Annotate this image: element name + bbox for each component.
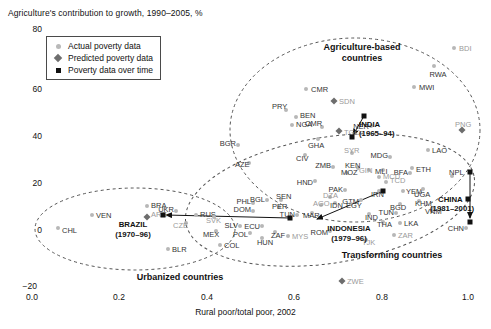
label-HND: HND — [297, 178, 313, 187]
point-BRA — [145, 204, 149, 208]
label-MDG: MDG — [371, 151, 389, 160]
label-HUN: HUN — [257, 238, 273, 247]
label-EGY: EGY — [346, 201, 362, 210]
label-VEN: VEN — [96, 211, 111, 220]
label-BRA: BRA — [151, 201, 166, 210]
label-SDN: SDN — [339, 97, 355, 106]
point-CHINA-start — [468, 170, 473, 175]
x-tick-0.8: 0.8 — [367, 292, 397, 302]
label-CMR-2: CMR — [305, 119, 322, 128]
label-MYS: MYS — [292, 232, 308, 241]
y-axis-title: Agriculture's contribution to growth, 19… — [8, 8, 203, 18]
legend-item-predicted: Predicted poverty data — [52, 52, 153, 64]
point-MYS — [286, 234, 290, 238]
y-tick-60: 60 — [8, 84, 42, 94]
label-BRAZIL-years: (1970–96) — [115, 230, 151, 239]
legend-marker-circle-icon — [52, 44, 64, 49]
label-ZAR: ZAR — [398, 231, 413, 240]
label-NPL: NPL — [449, 168, 464, 177]
point-BGL — [265, 198, 269, 202]
legend-marker-square-icon — [52, 68, 64, 73]
annotation-agriculture-based: Agriculture-based countries — [323, 42, 400, 64]
point-DOM — [251, 209, 255, 213]
label-INDIA-name: INDIA — [359, 120, 380, 129]
point-POL — [248, 231, 252, 235]
x-tick-1.0: 1.0 — [453, 292, 483, 302]
label-BRAZIL-name: BRAZIL — [119, 220, 148, 229]
label-INDIA-years: (1965–94) — [359, 129, 395, 138]
label-CHL: CHL — [62, 226, 77, 235]
point-CHN — [464, 226, 468, 230]
label-RWA: RWA — [429, 70, 446, 79]
point-ZMB — [331, 165, 335, 169]
point-CHINA-mid — [466, 197, 471, 202]
point-INDIA-start — [362, 114, 367, 119]
point-MCD — [377, 175, 381, 179]
label-ETH: ETH — [416, 165, 431, 174]
label-INDONESIA-name: INDONESIA — [327, 224, 370, 233]
label-ZWE: ZWE — [347, 277, 364, 286]
point-HND — [313, 179, 317, 183]
point-ETH — [410, 166, 414, 170]
label-IDN: IDN — [330, 201, 343, 210]
point-TCD — [384, 180, 388, 184]
annotation-agriculture-based-line1: Agriculture-based — [323, 42, 400, 53]
scatter-chart-figure: Agriculture's contribution to growth, 19… — [0, 0, 491, 329]
point-BEN — [294, 115, 298, 119]
point-BGR — [236, 143, 240, 147]
point-TUN-2 — [394, 211, 398, 215]
label-BLR: BLR — [172, 245, 187, 254]
label-BGL: BGL — [250, 195, 265, 204]
label-AGO: AGO — [313, 199, 330, 208]
label-GHA: GHA — [308, 141, 324, 150]
point-YEM — [401, 189, 405, 193]
y-tick-0: 0 — [8, 225, 42, 235]
point-BRAZIL-start — [288, 216, 293, 221]
point-TGO — [335, 127, 342, 134]
point-MDG — [388, 155, 392, 159]
point-RUS — [194, 213, 198, 217]
label-CHINA-name: CHINA — [438, 195, 463, 204]
label-CHN: CHN — [448, 224, 464, 233]
point-BFA — [408, 171, 412, 175]
label-CHINA-years: (1981–2001) — [430, 204, 474, 213]
label-MEX: MEX — [203, 230, 219, 239]
label-GIN: GIN — [359, 166, 372, 175]
label-IND: IND — [365, 213, 378, 222]
point-PAK — [343, 188, 347, 192]
point-TUN-1 — [295, 213, 299, 217]
y-tick-neg20: −20 — [3, 281, 37, 291]
label-TUN-2: TUN — [379, 208, 394, 217]
point-CHL — [56, 226, 60, 230]
label-BGR: BGR — [220, 139, 236, 148]
point-BDI — [452, 46, 456, 50]
point-RWA — [432, 64, 436, 68]
legend-label-predicted: Predicted poverty data — [68, 53, 153, 63]
brazil-trajectory-arrow — [166, 215, 290, 218]
point-INDIA-end — [350, 135, 355, 140]
point-CMR-1 — [304, 87, 308, 91]
point-INDONESIA-start — [381, 189, 386, 194]
legend-label-actual: Actual poverty data — [68, 41, 141, 51]
point-CHINA-end — [468, 220, 473, 225]
label-ZMB: ZMB — [315, 161, 331, 170]
annotation-agriculture-based-line2: countries — [323, 53, 400, 64]
point-NGA — [290, 123, 294, 127]
y-tick-40: 40 — [8, 131, 42, 141]
label-POL: POL — [233, 230, 248, 239]
label-LKA: LKA — [404, 219, 418, 228]
label-SLV: SLV — [224, 221, 238, 230]
label-THA: THA — [377, 220, 392, 229]
label-BDI: BDI — [459, 44, 472, 53]
label-MOZ: MOZ — [341, 168, 358, 177]
legend-item-actual: Actual poverty data — [52, 40, 153, 52]
label-MWI: MWI — [419, 83, 434, 92]
x-tick-0.0: 0.0 — [17, 292, 47, 302]
label-CIV: CIV — [296, 154, 309, 163]
legend-item-overtime: Poverty data over time — [52, 64, 153, 76]
label-SVK: SVK — [206, 216, 221, 225]
point-BLR — [166, 247, 170, 251]
point-UKR — [174, 209, 178, 213]
label-INDONESIA-years: (1979–96) — [331, 234, 367, 243]
label-DOM: DOM — [234, 205, 252, 214]
